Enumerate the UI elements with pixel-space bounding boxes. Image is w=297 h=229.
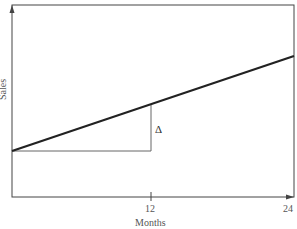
delta-label: Δ [155, 123, 162, 135]
y-axis-arrow-icon [10, 5, 15, 13]
sales-trend-line [12, 56, 294, 151]
y-axis-label: Sales [0, 79, 8, 100]
x-axis-arrow-icon [286, 195, 294, 200]
plot-frame [12, 5, 294, 197]
chart-canvas [0, 0, 297, 229]
x-axis-label: Months [135, 217, 166, 228]
x-tick-label-12: 12 [145, 203, 155, 214]
x-tick-label-24: 24 [283, 203, 293, 214]
